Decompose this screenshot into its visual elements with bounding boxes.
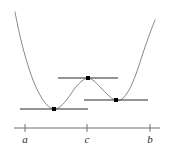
axis-tick-labels: acb (22, 133, 153, 145)
tick-label-a: a (22, 133, 28, 145)
point-marker-local-maximum (86, 76, 90, 80)
figure-container: acb (0, 0, 169, 149)
function-graph-figure: acb (0, 0, 169, 149)
point-marker-left-local-minimum (52, 107, 56, 111)
point-marker-right-local-minimum (114, 98, 118, 102)
function-curve (15, 12, 155, 109)
tick-label-c: c (85, 133, 90, 145)
tick-label-b: b (147, 133, 153, 145)
